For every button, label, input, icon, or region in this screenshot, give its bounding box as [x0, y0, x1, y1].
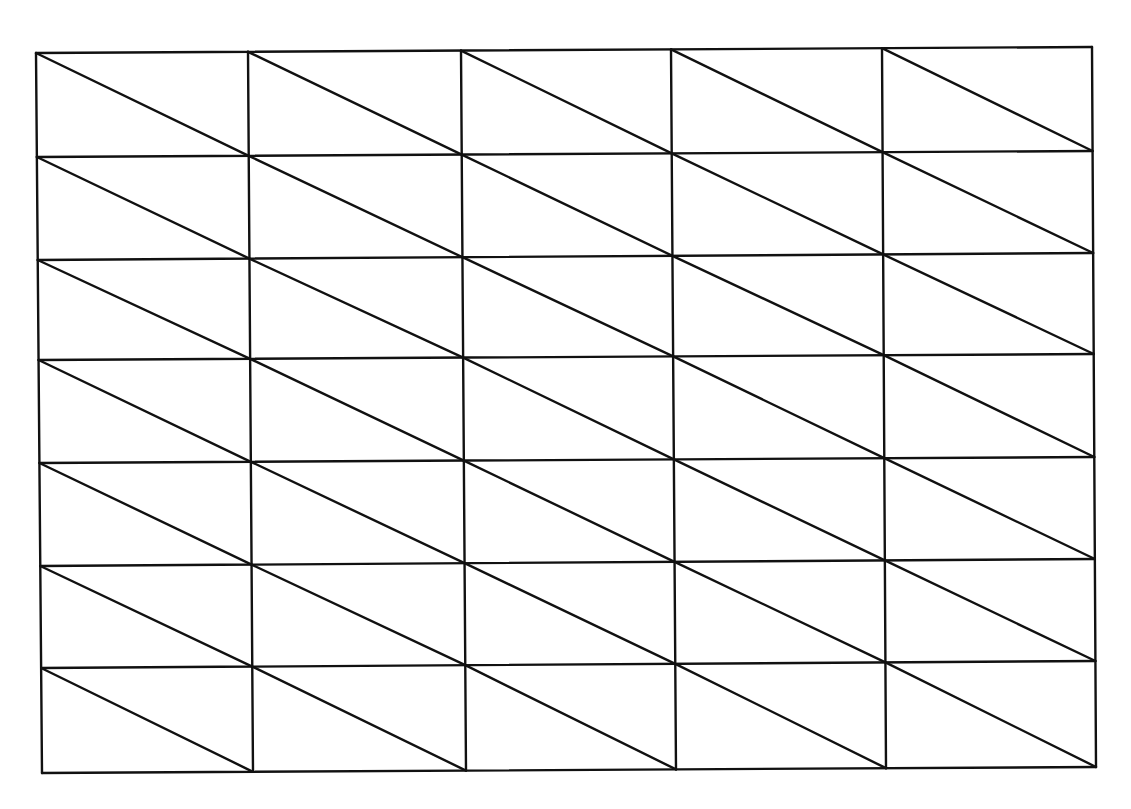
horizontal-grid-line [36, 47, 1092, 53]
cell-diagonal-line [252, 565, 466, 666]
cell-diagonal-line [883, 254, 1094, 354]
cell-diagonal-line [39, 463, 251, 565]
vertical-grid-line [36, 53, 42, 773]
cell-diagonal-line [40, 566, 252, 667]
cell-diagonal-line [250, 359, 464, 461]
triangulated-grid-mesh [0, 0, 1131, 809]
cell-diagonal-line [462, 155, 673, 256]
cell-diagonal-line [249, 156, 463, 257]
cell-diagonal-line [675, 562, 886, 663]
cell-diagonal-line [671, 49, 883, 152]
cell-diagonal-line [883, 152, 1094, 253]
cell-diagonal-line [673, 356, 884, 458]
horizontal-grid-line [42, 767, 1096, 773]
cell-diagonal-line [38, 260, 250, 359]
cell-diagonal-line [41, 668, 253, 772]
cell-diagonal-line [884, 355, 1095, 457]
cell-diagonal-line [462, 257, 673, 356]
cell-diagonal-line [465, 665, 676, 769]
cell-diagonal-line [252, 667, 466, 771]
cell-diagonal-line [672, 256, 883, 355]
cell-diagonal-line [885, 662, 1096, 767]
cell-diagonal-line [39, 360, 251, 462]
horizontal-grid-line [41, 661, 1095, 668]
horizontal-grid-line [39, 457, 1094, 463]
cell-diagonal-line [37, 157, 250, 259]
horizontal-grid-line [37, 151, 1093, 157]
horizontal-grid-line [38, 253, 1093, 260]
mesh-lines [36, 47, 1096, 773]
horizontal-grid-line [40, 559, 1095, 566]
cell-diagonal-line [36, 53, 249, 156]
cell-diagonal-line [464, 461, 675, 562]
cell-diagonal-line [672, 153, 883, 254]
cell-diagonal-line [882, 48, 1093, 151]
cell-diagonal-line [465, 563, 676, 664]
cell-diagonal-line [248, 52, 462, 155]
cell-diagonal-line [674, 459, 885, 560]
cell-diagonal-line [463, 358, 674, 460]
cell-diagonal-line [461, 51, 672, 154]
cell-diagonal-line [885, 560, 1096, 661]
horizontal-grid-line [39, 354, 1094, 360]
cell-diagonal-line [249, 259, 463, 358]
cell-diagonal-line [884, 458, 1095, 559]
cell-diagonal-line [251, 462, 465, 563]
cell-diagonal-line [675, 664, 886, 768]
